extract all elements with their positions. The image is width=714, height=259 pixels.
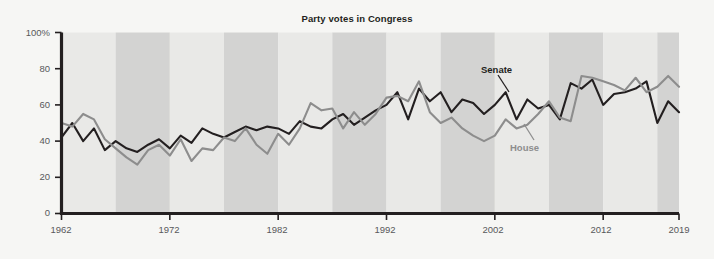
- background-band: [170, 33, 224, 214]
- y-axis-tick-label-60: 60: [4, 99, 50, 110]
- chart-plot-area: [0, 0, 714, 259]
- chart-figure: Party votes in Congress 100% 80 60 40 20…: [0, 0, 714, 259]
- background-band: [62, 33, 116, 214]
- background-band: [116, 33, 170, 214]
- x-axis-tick-label-1972: 1972: [144, 224, 194, 235]
- x-axis-tick-label-2002: 2002: [468, 224, 518, 235]
- y-axis-tick-label-80: 80: [4, 63, 50, 74]
- y-axis-tick-label-20: 20: [4, 171, 50, 182]
- background-band: [387, 33, 441, 214]
- series-label-house: House: [510, 142, 539, 153]
- background-band: [603, 33, 657, 214]
- series-label-senate: Senate: [481, 64, 512, 75]
- x-axis-tick-label-2019: 2019: [654, 224, 704, 235]
- y-axis-tick-label-0: 0: [4, 207, 50, 218]
- x-axis-tick-label-1992: 1992: [360, 224, 410, 235]
- x-axis-tick-label-1962: 1962: [36, 224, 86, 235]
- background-band: [441, 33, 495, 214]
- x-axis-tick-label-2012: 2012: [576, 224, 626, 235]
- background-band: [657, 33, 679, 214]
- y-axis-tick-label-40: 40: [4, 135, 50, 146]
- background-band: [224, 33, 278, 214]
- y-axis-tick-label-100: 100%: [4, 27, 50, 38]
- background-band: [549, 33, 603, 214]
- x-axis-tick-label-1982: 1982: [252, 224, 302, 235]
